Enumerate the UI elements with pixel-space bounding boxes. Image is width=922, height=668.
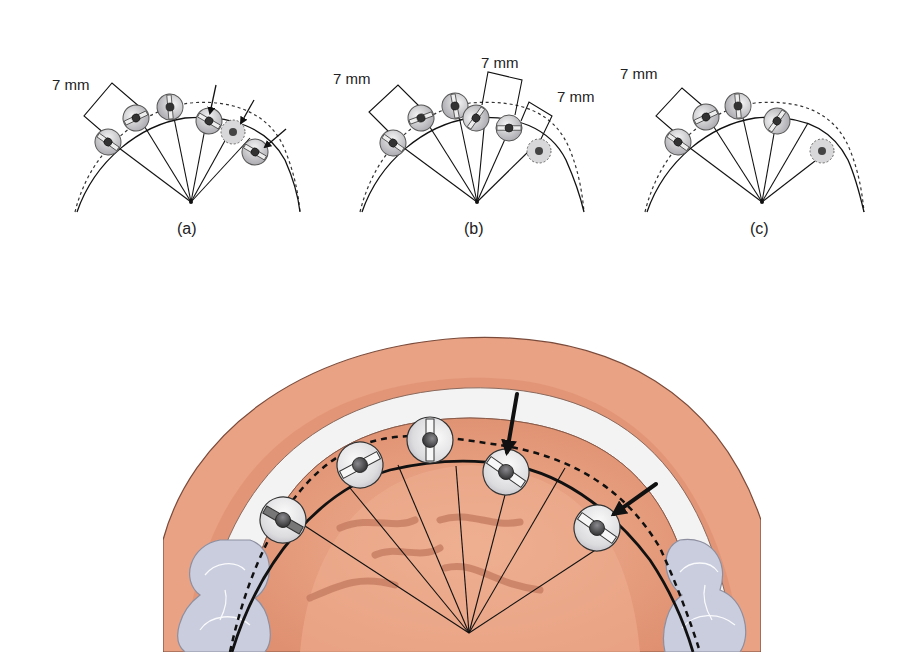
measure-bracket-2 — [482, 72, 522, 115]
measure-label: 7 mm — [620, 65, 658, 82]
measure-label-3: 7 mm — [557, 88, 595, 105]
panel-label: (b) — [464, 220, 484, 237]
panel-c: 7 mm (c) — [620, 65, 864, 237]
measure-label-2: 7 mm — [481, 54, 519, 71]
figure-svg: 7 mm (a) 7 mm 7 mm — [0, 0, 922, 668]
panel-label: (c) — [750, 220, 769, 237]
measure-label-1: 7 mm — [333, 70, 371, 87]
panel-b: 7 mm 7 mm 7 mm (b) — [333, 54, 595, 237]
measure-label: 7 mm — [52, 76, 90, 93]
palate-illustration — [163, 337, 761, 652]
figure: 7 mm (a) 7 mm 7 mm — [0, 0, 922, 668]
panel-label: (a) — [177, 220, 197, 237]
panel-a: 7 mm (a) — [52, 76, 300, 237]
radial-lines — [686, 118, 815, 202]
measure-bracket-3 — [521, 102, 552, 141]
